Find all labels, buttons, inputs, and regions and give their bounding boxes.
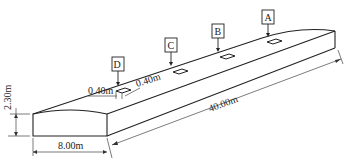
length-arrow-right <box>335 59 341 63</box>
length-arrow-left <box>112 141 118 145</box>
opening-y-label: 0.40m <box>134 71 162 89</box>
height-label: 2.30m <box>2 85 13 111</box>
marker-label-D: D <box>114 59 121 70</box>
width-arrow-left <box>33 150 37 154</box>
back-crown <box>262 30 335 38</box>
marker-label-A: A <box>265 12 273 23</box>
width-ext-right <box>107 138 112 158</box>
width-label: 8.00m <box>58 140 84 151</box>
opening-D <box>116 88 131 93</box>
height-arrow-top <box>14 114 18 118</box>
front-face <box>33 110 107 136</box>
length-ext-right <box>338 50 343 64</box>
arrowhead-B <box>216 48 220 52</box>
arrowhead-C <box>169 62 173 66</box>
opening-A <box>267 39 282 44</box>
height-arrow-bottom <box>14 132 18 136</box>
opening-B <box>220 54 235 59</box>
opening-x-label: 0.40m <box>88 85 114 96</box>
length-label: 40.00m <box>207 93 239 114</box>
marker-label-B: B <box>215 26 222 37</box>
marker-label-C: C <box>168 40 175 51</box>
bottom-right-edge <box>107 48 335 136</box>
width-arrow-right <box>103 150 107 154</box>
opening-C <box>173 69 188 74</box>
slab-diagram: A B C D 2.30m 8.00m 40.00m 0.40m 0.4 <box>0 0 347 164</box>
